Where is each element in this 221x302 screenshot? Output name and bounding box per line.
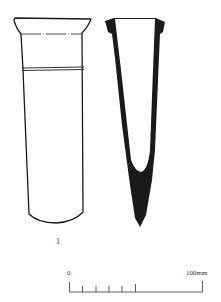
scale-start-label: 0 <box>67 270 71 277</box>
scale-end-label: 100mm <box>186 270 207 277</box>
section-view <box>105 18 165 227</box>
object-number-label: 1 <box>56 238 60 246</box>
scale-bar <box>70 281 203 292</box>
artifact-drawing <box>0 0 221 302</box>
elevation-view <box>14 18 91 223</box>
